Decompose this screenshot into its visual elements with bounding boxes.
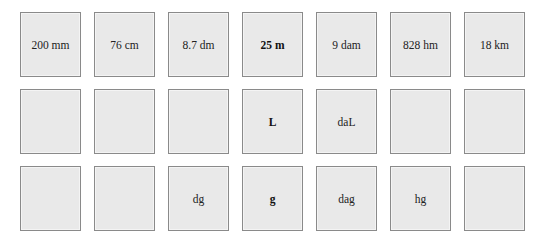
cell-length-hm: 828 hm <box>390 12 451 77</box>
cell-mass-empty-7 <box>464 166 525 231</box>
cell-mass-hg: hg <box>390 166 451 231</box>
cell-volume-empty-1 <box>20 89 81 154</box>
cell-length-cm: 76 cm <box>94 12 155 77</box>
cell-volume-empty-3 <box>168 89 229 154</box>
unit-conversion-grid: 200 mm 76 cm 8.7 dm 25 m 9 dam 828 hm 18… <box>20 12 525 231</box>
cell-volume-l-base: L <box>242 89 303 154</box>
cell-length-km: 18 km <box>464 12 525 77</box>
cell-mass-dag: dag <box>316 166 377 231</box>
cell-mass-empty-2 <box>94 166 155 231</box>
cell-volume-empty-6 <box>390 89 451 154</box>
cell-mass-g-base: g <box>242 166 303 231</box>
cell-length-m-base: 25 m <box>242 12 303 77</box>
cell-volume-empty-7 <box>464 89 525 154</box>
cell-length-mm: 200 mm <box>20 12 81 77</box>
cell-mass-dg: dg <box>168 166 229 231</box>
cell-volume-dal: daL <box>316 89 377 154</box>
cell-length-dam: 9 dam <box>316 12 377 77</box>
cell-volume-empty-2 <box>94 89 155 154</box>
cell-length-dm: 8.7 dm <box>168 12 229 77</box>
cell-mass-empty-1 <box>20 166 81 231</box>
